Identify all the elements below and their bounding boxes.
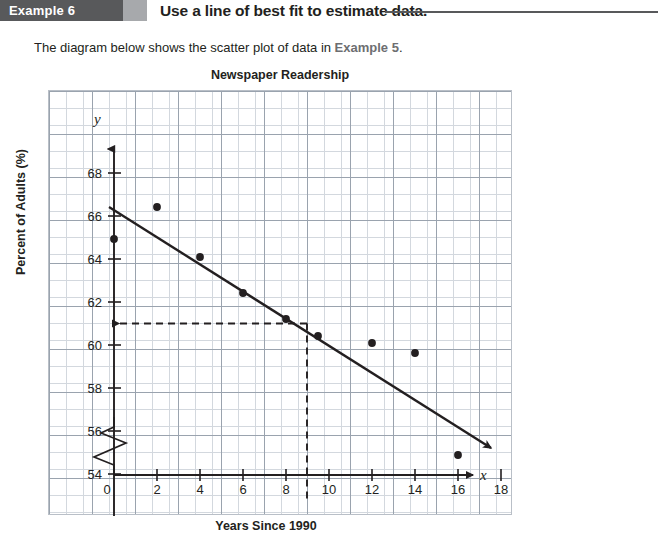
chart-grid-panel: 68 66 64 62 60 58 56 0 [48, 90, 512, 515]
x-tick-label-6: 6 [239, 482, 246, 497]
example-tag-extension [123, 0, 147, 21]
x-tick-label-18: 18 [494, 482, 508, 497]
data-point [454, 451, 462, 459]
data-point [196, 253, 204, 261]
x-tick-label-4: 4 [196, 482, 203, 497]
intro-text-before: The diagram below shows the scatter plot… [34, 40, 335, 55]
axes-group [94, 149, 473, 516]
intro-text-after: . [399, 40, 403, 55]
y-tick-label-60: 60 [88, 338, 102, 353]
y-tick-label-64: 64 [88, 252, 102, 267]
y-tick-label-58: 58 [88, 381, 102, 396]
data-point [110, 235, 118, 243]
y-tick-label-56: 56 [88, 424, 102, 439]
y-tick-label-68: 68 [88, 166, 102, 181]
x-tick-label-10: 10 [322, 482, 336, 497]
data-point [239, 289, 247, 297]
x-tick-label-14: 14 [408, 482, 422, 497]
intro-sentence: The diagram below shows the scatter plot… [34, 40, 403, 55]
chart-title: Newspaper Readership [0, 68, 560, 82]
scatter-plot-svg: 68 66 64 62 60 58 56 0 [49, 91, 513, 516]
x-tick-label-8: 8 [282, 482, 289, 497]
x-tick-label-16: 16 [451, 482, 465, 497]
example-tag: Example 6 [0, 0, 123, 21]
data-point [282, 315, 290, 323]
data-point [411, 349, 419, 357]
x-tick-group: 0 2 4 6 8 10 12 14 16 18 [103, 469, 508, 497]
y-tick-label-62: 62 [88, 295, 102, 310]
example-5-reference: Example 5 [335, 40, 399, 55]
example-tag-label: Example 6 [9, 3, 75, 18]
data-point [368, 339, 376, 347]
header-bar: Example 6 Use a line of best fit to esti… [0, 0, 658, 24]
data-point [153, 203, 161, 211]
header-divider [385, 11, 658, 13]
y-tick-label-54: 54 [88, 467, 102, 482]
x-tick-label-2: 2 [153, 482, 160, 497]
x-tick-label-12: 12 [365, 482, 379, 497]
y-tick-label-66: 66 [88, 209, 102, 224]
data-point [314, 332, 322, 340]
y-axis-symbol: y [92, 111, 101, 127]
x-axis-symbol: x [479, 467, 487, 483]
y-axis-title: Percent of Adults (%) [14, 122, 28, 302]
x-axis-title: Years Since 1990 [34, 519, 498, 533]
x-tick-label-0: 0 [103, 482, 110, 497]
line-of-best-fit [109, 207, 491, 448]
